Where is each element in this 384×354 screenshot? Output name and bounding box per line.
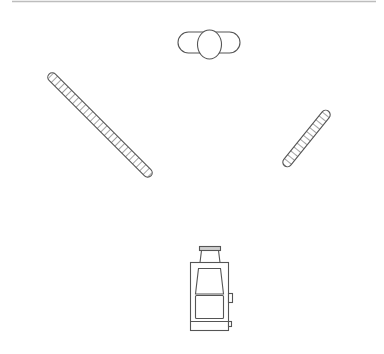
stove-knob-upper — [229, 294, 233, 303]
top-fixture — [178, 30, 240, 59]
stove-knob-lower — [229, 322, 232, 327]
fixture-ellipse — [198, 30, 222, 59]
chimney-cap — [200, 247, 221, 251]
stove-door — [196, 269, 224, 295]
left-hatched-bar — [46, 71, 154, 179]
diagram-canvas — [0, 0, 384, 354]
stove-lower-window — [196, 296, 224, 319]
stove — [191, 247, 233, 331]
chimney-pipe — [200, 251, 220, 263]
right-hatched-bar — [281, 108, 332, 168]
